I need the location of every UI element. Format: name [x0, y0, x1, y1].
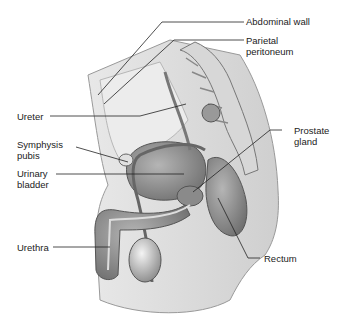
label-parietal-peritoneum: Parietal peritoneum	[246, 35, 294, 57]
label-abdominal-wall: Abdominal wall	[246, 16, 310, 27]
label-symphysis-pubis: Symphysis pubis	[17, 139, 63, 161]
label-rectum: Rectum	[264, 253, 297, 264]
label-urinary-bladder: Urinary bladder	[17, 168, 49, 190]
anatomy-diagram: Abdominal wall Parietal peritoneum Urete…	[0, 0, 350, 317]
label-prostate-gland: Prostate gland	[294, 125, 329, 147]
label-ureter: Ureter	[17, 111, 43, 122]
label-urethra: Urethra	[17, 242, 49, 253]
